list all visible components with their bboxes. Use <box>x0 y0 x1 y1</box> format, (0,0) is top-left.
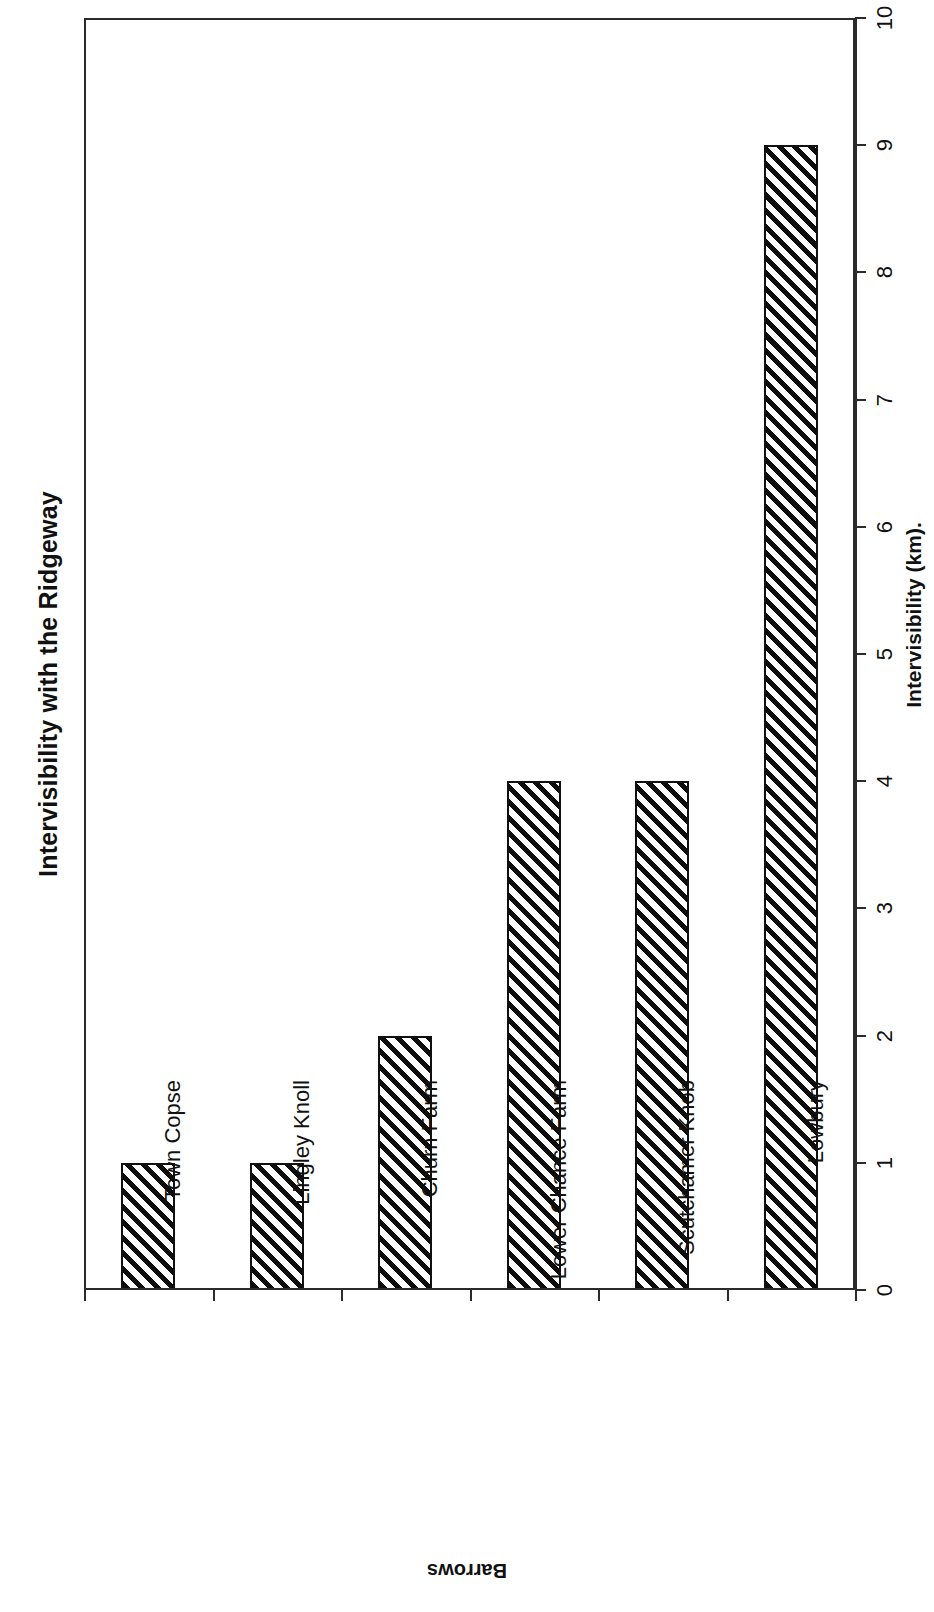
value-axis-tick-label: 3 <box>872 885 898 931</box>
category-axis-tick <box>341 1290 343 1301</box>
value-axis-tick-label: 2 <box>872 1013 898 1059</box>
category-axis-tick <box>855 1290 857 1301</box>
value-axis-tick-label: 0 <box>872 1267 898 1313</box>
value-axis-tick <box>855 17 866 19</box>
category-axis-title: Barrows <box>387 1556 547 1586</box>
category-axis-label: Scutchamer Knob <box>673 1080 701 1310</box>
chart-title: Intervisibility with the Ridgeway <box>28 384 68 984</box>
value-axis-tick <box>855 399 866 401</box>
value-axis-tick <box>855 526 866 528</box>
value-axis-tick-label: 1 <box>872 1140 898 1186</box>
category-axis-label: Lower Chance Farm <box>545 1080 573 1310</box>
value-axis-tick <box>855 1162 866 1164</box>
value-axis-tick-label: 8 <box>872 249 898 295</box>
value-axis-title: Intervisibility (km). <box>899 485 929 745</box>
value-axis-tick <box>855 144 866 146</box>
value-axis-tick-label: 9 <box>872 122 898 168</box>
value-axis-tick <box>855 907 866 909</box>
value-axis-tick <box>855 271 866 273</box>
chart-page: Intervisibility with the Ridgeway 012345… <box>0 0 934 1612</box>
value-axis-tick-label: 7 <box>872 377 898 423</box>
value-axis-tick-label: 10 <box>872 0 898 41</box>
category-axis-tick <box>470 1290 472 1301</box>
value-axis-tick-label: 6 <box>872 504 898 550</box>
category-axis-tick <box>84 1290 86 1301</box>
value-axis-tick-label: 4 <box>872 758 898 804</box>
category-axis-label: Lowbury <box>802 1080 830 1310</box>
category-axis-tick <box>213 1290 215 1301</box>
category-axis-label: Lingley Knoll <box>288 1080 316 1310</box>
value-axis-tick-label: 5 <box>872 631 898 677</box>
bars-layer <box>84 18 855 1290</box>
category-axis-label: Town Copse <box>159 1080 187 1310</box>
category-axis-label: Churn Farm <box>416 1080 444 1310</box>
value-axis-tick <box>855 1035 866 1037</box>
value-axis-tick <box>855 653 866 655</box>
category-axis-tick <box>598 1290 600 1301</box>
value-axis-tick <box>855 780 866 782</box>
category-axis-tick <box>727 1290 729 1301</box>
